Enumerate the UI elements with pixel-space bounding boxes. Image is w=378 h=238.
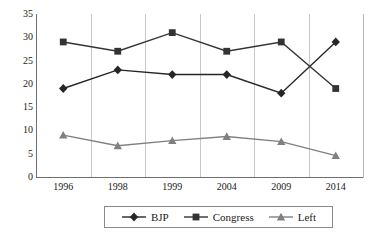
series-congress — [60, 29, 339, 92]
data-point-diamond — [223, 70, 231, 79]
y-axis-tick-label: 5 — [3, 149, 33, 159]
data-series-layer — [36, 14, 363, 177]
legend-entry-left: Left — [268, 211, 316, 223]
data-point-square — [114, 48, 121, 55]
legend-marker-triangle-icon — [268, 211, 294, 223]
x-axis-tick-labels: 199619981999200420092014 — [36, 181, 363, 197]
data-point-square — [223, 48, 230, 55]
x-axis-tick-label: 2004 — [217, 181, 237, 192]
x-axis-tick-label: 2014 — [326, 181, 346, 192]
data-point-square — [192, 214, 199, 221]
x-axis-tick-label: 1998 — [108, 181, 128, 192]
legend-entry-bjp: BJP — [121, 211, 169, 223]
plot-right-border — [363, 14, 364, 178]
x-axis-line — [36, 177, 364, 178]
data-point-square — [60, 39, 67, 46]
y-axis-tick-label: 30 — [3, 32, 33, 42]
legend-marker-diamond-icon — [121, 211, 147, 223]
chart-legend: BJPCongressLeft — [104, 206, 333, 228]
x-axis-tick-label: 2009 — [271, 181, 291, 192]
line-chart: 05101520253035 199619981999200420092014 … — [0, 0, 378, 238]
y-axis-tick-label: 15 — [3, 102, 33, 112]
data-point-square — [332, 85, 339, 92]
y-axis-tick-labels: 05101520253035 — [0, 14, 33, 177]
y-axis-tick-label: 0 — [3, 172, 33, 182]
data-point-diamond — [114, 65, 122, 74]
y-axis-tick-label: 25 — [3, 56, 33, 66]
series-line — [63, 135, 336, 155]
data-point-diamond — [59, 84, 67, 93]
x-axis-tick-label: 1999 — [162, 181, 182, 192]
data-point-diamond — [168, 70, 176, 79]
y-axis-tick-label: 10 — [3, 125, 33, 135]
legend-label: Congress — [213, 211, 254, 223]
data-point-diamond — [130, 213, 138, 222]
series-left — [59, 131, 340, 159]
series-bjp — [59, 38, 340, 98]
x-axis-tick-label: 1996 — [53, 181, 73, 192]
data-point-square — [169, 29, 176, 36]
legend-label: Left — [298, 211, 316, 223]
y-axis-tick-label: 20 — [3, 79, 33, 89]
data-point-square — [278, 39, 285, 46]
legend-marker-square-icon — [183, 211, 209, 223]
legend-entry-congress: Congress — [183, 211, 254, 223]
data-point-triangle — [59, 131, 67, 139]
y-axis-tick-label: 35 — [3, 9, 33, 19]
legend-label: BJP — [151, 211, 169, 223]
